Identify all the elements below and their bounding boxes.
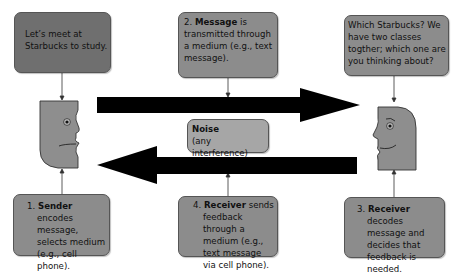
noise-box: Noise (any interference) [187, 119, 269, 153]
step-keyword: Receiver [204, 200, 246, 210]
step-keyword: Receiver [368, 204, 410, 214]
receiver-speech-box: Which Starbucks? We have two classes tog… [344, 15, 449, 76]
step-number: 4. [193, 200, 201, 210]
step-number: 1. [27, 201, 35, 211]
noise-description: (any interference) [192, 135, 264, 159]
sender-speech-box: Let’s meet at Starbucks to study. [14, 12, 111, 73]
receiver-speech-text: Which Starbucks? We have two classes tog… [348, 20, 446, 66]
sender-speech-text: Let’s meet at Starbucks to study. [25, 29, 107, 51]
step-description: sends feedback through a medium (e.g., t… [203, 200, 274, 270]
feedback-step-box: 4. Receiver sends feedback through a med… [178, 196, 278, 257]
frowning-face-profile-icon [40, 101, 79, 168]
step-keyword: Message [195, 17, 237, 27]
step-description: encodes message, selects medium (e.g., c… [37, 213, 105, 271]
smiling-face-profile-icon [373, 107, 416, 170]
noise-label: Noise [192, 124, 219, 134]
step-number: 3. [357, 204, 365, 214]
message-step-box: 2. Message is transmitted through a medi… [178, 12, 278, 78]
step-description: decodes message and decides that feedbac… [367, 216, 425, 274]
sender-step-box: 1. Sender encodes message, selects mediu… [13, 194, 110, 256]
step-keyword: Sender [38, 201, 72, 211]
decode-step-box: 3. Receiver decodes message and decides … [344, 197, 445, 258]
step-number: 2. [184, 17, 192, 27]
